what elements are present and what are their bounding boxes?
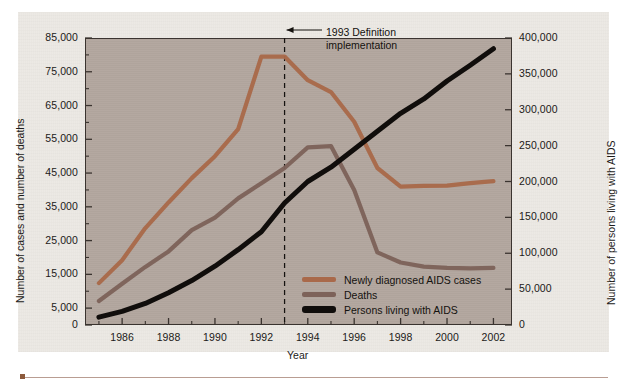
legend-label-cases: Newly diagnosed AIDS cases xyxy=(344,274,481,286)
y-axis-right-title: Number of persons living with AIDS xyxy=(605,140,617,305)
y-left-tick: 85,000 xyxy=(0,31,78,43)
y-left-tick: 25,000 xyxy=(0,234,78,246)
x-tick: 1992 xyxy=(245,331,277,343)
x-tick: 1994 xyxy=(292,331,324,343)
x-tick: 2000 xyxy=(431,331,463,343)
x-tick: 1996 xyxy=(338,331,370,343)
legend-item-living: Persons living with AIDS xyxy=(302,302,481,317)
y-right-tick: 300,000 xyxy=(519,103,558,115)
legend-swatch-cases xyxy=(302,277,336,282)
y-right-tick: 200,000 xyxy=(519,175,558,187)
y-right-tick: 250,000 xyxy=(519,139,558,151)
x-axis-title: Year xyxy=(287,349,308,361)
y-left-tick: 65,000 xyxy=(0,99,78,111)
y-left-tick: 0 xyxy=(0,318,78,330)
y-right-tick: 350,000 xyxy=(519,67,558,79)
footer-rule xyxy=(22,377,608,378)
chart-legend: Newly diagnosed AIDS cases Deaths Person… xyxy=(302,272,481,317)
y-right-tick: 100,000 xyxy=(519,246,558,258)
figure-container: 05,00015,00025,00035,00045,00055,00065,0… xyxy=(0,0,627,391)
legend-swatch-deaths xyxy=(302,292,336,297)
footer-bullet xyxy=(20,374,25,379)
legend-item-cases: Newly diagnosed AIDS cases xyxy=(302,272,481,287)
x-tick: 1998 xyxy=(385,331,417,343)
legend-label-living: Persons living with AIDS xyxy=(344,304,458,316)
y-left-tick: 15,000 xyxy=(0,267,78,279)
y-right-tick: 50,000 xyxy=(519,282,552,294)
y-left-tick: 5,000 xyxy=(0,301,78,313)
x-tick: 1986 xyxy=(106,331,138,343)
y-axis-left-title: Number of cases and number of deaths xyxy=(14,119,26,303)
annotation-line-2: implementation xyxy=(326,39,397,52)
y-left-tick: 75,000 xyxy=(0,65,78,77)
x-tick: 2002 xyxy=(477,331,509,343)
x-tick: 1988 xyxy=(153,331,185,343)
y-left-tick: 55,000 xyxy=(0,132,78,144)
legend-swatch-living xyxy=(302,306,336,313)
y-left-tick: 45,000 xyxy=(0,166,78,178)
y-right-tick: 150,000 xyxy=(519,210,558,222)
annotation-line-1: 1993 Definition xyxy=(326,26,396,39)
y-right-tick: 400,000 xyxy=(519,31,558,43)
y-left-tick: 35,000 xyxy=(0,200,78,212)
legend-item-deaths: Deaths xyxy=(302,287,481,302)
legend-label-deaths: Deaths xyxy=(344,289,377,301)
x-tick: 1990 xyxy=(199,331,231,343)
y-right-tick: 0 xyxy=(519,318,525,330)
